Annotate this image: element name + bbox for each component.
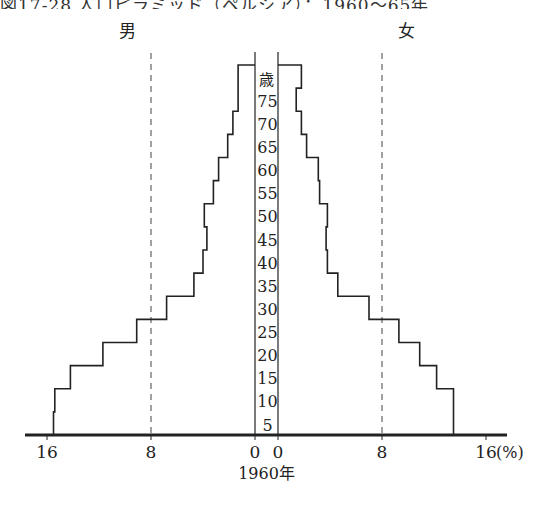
age-tick-label: 50 <box>257 207 277 226</box>
age-tick-label: 30 <box>257 300 277 319</box>
x-tick-label-right: 0 <box>273 442 284 462</box>
age-tick-label: 40 <box>257 254 277 273</box>
age-tick-label: 65 <box>257 138 277 157</box>
x-tick-label-right: 16 <box>475 442 497 462</box>
age-tick-label: 70 <box>257 115 277 134</box>
year-label: 1960年 <box>238 464 295 483</box>
male-label: 男 <box>119 21 136 41</box>
age-tick-label: 55 <box>257 184 277 203</box>
x-tick-label-left: 16 <box>36 442 58 462</box>
x-tick-label-right: 8 <box>377 442 388 462</box>
age-tick-label: 10 <box>257 392 277 411</box>
x-tick-label-left: 8 <box>146 442 157 462</box>
population-pyramid-chart: 16800816(%)1960年510152025303540455055606… <box>0 0 549 510</box>
age-tick-label: 20 <box>257 346 277 365</box>
age-tick-label: 25 <box>257 323 277 342</box>
female-series-outline <box>278 65 454 435</box>
male-series-outline <box>54 65 256 435</box>
age-tick-label: 45 <box>257 231 277 250</box>
x-tick-label-left: 0 <box>250 442 261 462</box>
female-label: 女 <box>398 21 415 41</box>
unit-label: (%) <box>496 443 524 462</box>
age-tick-label: 35 <box>257 277 277 296</box>
age-tick-label: 15 <box>257 369 277 388</box>
age-tick-label: 5 <box>262 416 272 435</box>
age-tick-label: 75 <box>257 92 277 111</box>
age-tick-label: 60 <box>257 161 277 180</box>
age-unit-label: 歳 <box>259 71 274 89</box>
